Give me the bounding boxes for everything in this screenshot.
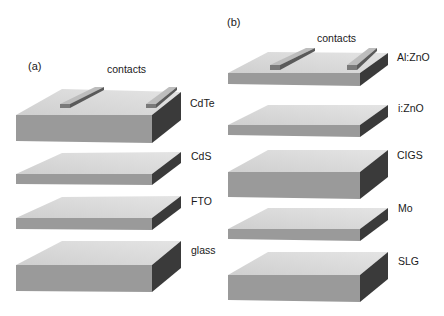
slab-slg (228, 252, 388, 302)
slab-fto (16, 196, 181, 230)
layer-label-al-zno: Al:ZnO (397, 52, 430, 63)
slab-cdte (16, 87, 181, 143)
panel-a-stack (16, 87, 181, 292)
slab-mo (228, 208, 388, 241)
solar-cell-layer-diagram (0, 0, 444, 316)
layer-label-cdte: CdTe (190, 98, 215, 109)
layer-label-i-zno: i:ZnO (398, 103, 424, 114)
layer-label-cigs: CIGS (397, 150, 423, 161)
slab-glass (16, 241, 181, 292)
contacts-label-a: contacts (107, 64, 146, 75)
layer-label-slg: SLG (398, 256, 419, 267)
contacts-label-b: contacts (317, 33, 356, 44)
slab-cigs (228, 150, 388, 199)
layer-label-cds: CdS (191, 151, 211, 162)
panel-b-label: (b) (227, 17, 240, 28)
slab-al-zno (228, 48, 388, 86)
panel-a-label: (a) (28, 61, 41, 72)
slab-cds (16, 152, 181, 185)
layer-label-glass: glass (191, 245, 216, 256)
panel-b-stack (228, 48, 388, 302)
slab-i-zno (228, 105, 388, 137)
layer-label-fto: FTO (191, 196, 212, 207)
layer-label-mo: Mo (398, 203, 413, 214)
